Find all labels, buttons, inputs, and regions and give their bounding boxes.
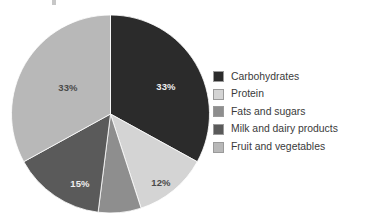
pie-svg: 33%12%15%33% — [11, 14, 210, 214]
legend-item-label: Protein — [231, 89, 264, 99]
pie-slice-label: 12% — [151, 177, 171, 188]
pie-slice-label: 33% — [156, 81, 176, 92]
pie-slice-group — [12, 15, 210, 213]
legend-color-swatch — [213, 89, 224, 100]
pie-slice-label: 15% — [70, 178, 90, 189]
chart-legend: CarbohydratesProteinFats and sugarsMilk … — [213, 68, 373, 156]
legend-item[interactable]: Carbohydrates — [213, 68, 373, 86]
legend-item-label: Milk and dairy products — [231, 124, 338, 134]
pie-slice-label: 33% — [58, 82, 78, 93]
legend-item[interactable]: Milk and dairy products — [213, 121, 373, 139]
legend-item[interactable]: Protein — [213, 86, 373, 104]
legend-item-label: Fruit and vegetables — [231, 142, 325, 152]
pie-chart-figure: 33%12%15%33% CarbohydratesProteinFats an… — [0, 0, 373, 224]
legend-color-swatch — [213, 142, 224, 153]
legend-color-swatch — [213, 71, 224, 82]
scan-crop-artifact — [52, 0, 56, 5]
pie-chart: 33%12%15%33% — [11, 14, 210, 214]
legend-item[interactable]: Fruit and vegetables — [213, 138, 373, 156]
legend-color-swatch — [213, 106, 224, 117]
legend-item-label: Fats and sugars — [231, 107, 306, 117]
legend-item-label: Carbohydrates — [231, 72, 299, 82]
legend-color-swatch — [213, 124, 224, 135]
legend-item[interactable]: Fats and sugars — [213, 103, 373, 121]
